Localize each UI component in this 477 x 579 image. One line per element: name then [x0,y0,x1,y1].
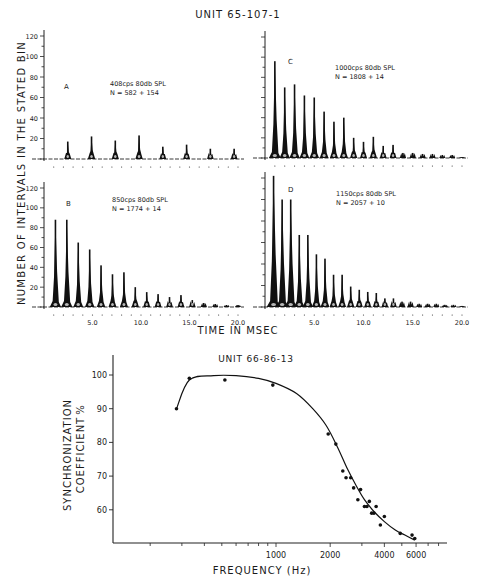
y-tick-label: 120 [26,185,38,193]
y-tick-label: 80 [30,74,38,82]
panel-count: N = 1774 + 14 [112,205,161,213]
data-point [359,488,363,492]
sync-coefficient-plot: 607080901001000200040006000 [92,355,447,560]
panel-count: N = 2057 + 10 [336,199,385,207]
y-tick-label: 40 [30,115,38,123]
histogram-peak [212,304,218,307]
panel-letter: A [64,83,69,91]
histogram-peak [390,145,397,158]
x-tick-label: 6000 [406,551,426,560]
y-tick-label: 100 [26,204,38,212]
histogram-peak [364,292,371,307]
histogram-peak [350,138,357,158]
y-tick-label: 90 [97,405,107,414]
histogram-peak [442,305,448,307]
histogram-peak [289,84,299,158]
y-tick-label: 70 [97,472,107,481]
x-tick-label: 2000 [320,551,340,560]
data-point [352,486,356,490]
panel-letter: B [66,200,71,208]
histogram-panels: 20406080100120A408cps 80db SPLN = 582 + … [26,30,470,327]
histogram-peak [88,136,95,159]
figure-top: UNIT 65-107-1 NUMBER OF INTERVALS IN THE… [16,9,469,336]
y-tick-label: 100 [26,53,38,61]
histogram-peak [97,265,105,307]
histogram-peak [330,122,338,158]
histogram-peak [120,272,128,307]
figure: UNIT 65-107-1 NUMBER OF INTERVALS IN THE… [0,0,477,579]
histogram-peak [433,304,439,307]
panel-stimulus: 1000cps 80db SPL [335,64,395,72]
histogram-peak [373,293,380,307]
histogram-peak [382,298,389,307]
y-tick-label: 60 [30,94,38,102]
histogram-peak [61,220,72,307]
histogram-peak [284,200,296,308]
data-point [271,383,275,387]
histogram-peak [267,176,281,307]
panel-count: N = 1808 + 14 [335,73,384,81]
data-point [356,498,360,502]
data-point [341,469,345,473]
histogram-peak [419,154,425,158]
fit-curve [176,375,414,540]
x-tick-label: 5.0 [87,319,97,327]
histogram-peak [356,290,363,307]
x-tick-label: 10.0 [356,319,370,327]
data-point [398,532,402,536]
histogram-peak [450,305,456,307]
histogram-peak [178,295,185,307]
top-title: UNIT 65-107-1 [195,9,280,20]
data-point [175,407,179,411]
bottom-ylabel-line1: SYNCHRONIZATION [62,399,73,511]
histogram-peak [459,306,465,307]
y-tick-label: 40 [30,264,38,272]
histogram-peak [166,297,173,307]
histogram-peak [269,61,281,158]
histogram-peak [183,145,190,159]
histogram-peak [340,118,348,158]
y-tick-label: 20 [30,135,38,143]
histogram-peak [459,157,465,158]
data-point [326,432,330,436]
bottom-xlabel: FREQUENCY (Hz) [213,565,312,576]
x-tick-label: 4000 [374,551,394,560]
data-point [223,378,227,382]
y-tick-label: 60 [30,244,38,252]
histogram-peak [135,135,142,159]
histogram-peak [416,304,422,307]
histogram-peak [276,200,288,308]
histogram-peak [294,235,304,307]
panel-b: 204060801001205.010.015.020.0B850cps 80d… [26,182,246,327]
panel-stimulus: 1150cps 80db SPL [336,190,396,198]
data-point [368,500,372,504]
histogram-peak [439,155,445,158]
histogram-peak [189,300,195,307]
histogram-peak [407,302,413,307]
histogram-peak [309,98,319,159]
histogram-peak [390,298,397,307]
histogram-peak [201,303,207,307]
histogram-peak [321,259,330,307]
data-point [372,511,376,515]
histogram-peak [330,275,338,307]
y-tick-label: 80 [30,224,38,232]
bottom-ylabel-line2: COEFFICIENT [75,417,86,493]
histogram-peak [429,154,435,158]
y-tick-label: 60 [97,506,107,515]
figure-bottom: UNIT 66-86-13 SYNCHRONIZATION COEFFICIEN… [62,354,447,576]
panel-letter: C [288,58,293,66]
bottom-title: UNIT 66-86-13 [218,354,294,364]
data-point [334,442,338,446]
top-ylabel: NUMBER OF INTERVALS IN THE STATED BIN [16,41,27,305]
data-point [188,377,192,381]
histogram-peak [449,155,455,158]
data-point [349,476,353,480]
histogram-peak [347,287,354,307]
histogram-peak [85,249,94,307]
x-tick-label: 15.0 [406,319,420,327]
panel-stimulus: 850cps 80db SPL [112,196,168,204]
histogram-peak [50,220,61,307]
data-point [410,533,414,537]
bottom-ylabel-unit: % [75,405,86,415]
